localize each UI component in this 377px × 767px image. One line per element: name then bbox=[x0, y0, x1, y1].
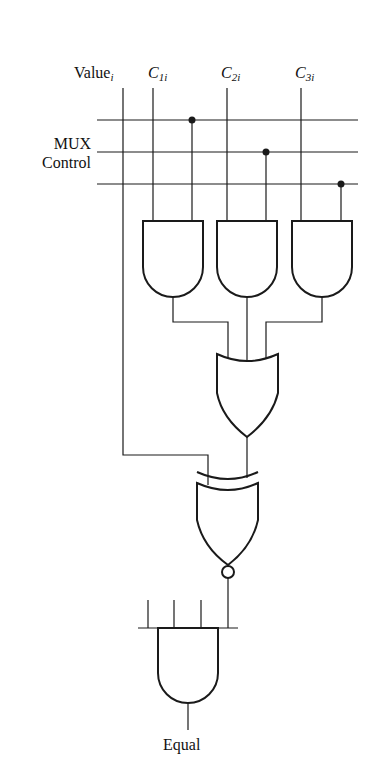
and3-out-wire bbox=[266, 297, 322, 360]
junction-dot-3 bbox=[338, 181, 345, 188]
and-gate-2 bbox=[217, 221, 277, 297]
and1-out-wire bbox=[173, 297, 228, 360]
final-and-gate bbox=[158, 628, 218, 703]
junction-dot-2 bbox=[263, 149, 270, 156]
junction-dot-1 bbox=[189, 117, 196, 124]
xnor-gate bbox=[197, 483, 258, 565]
xnor-bubble bbox=[222, 566, 234, 578]
xnor-extra-curve bbox=[197, 472, 258, 479]
or-gate bbox=[217, 354, 278, 437]
circuit-diagram bbox=[0, 0, 377, 767]
and-gate-3 bbox=[292, 221, 352, 297]
and-gate-1 bbox=[143, 221, 203, 297]
